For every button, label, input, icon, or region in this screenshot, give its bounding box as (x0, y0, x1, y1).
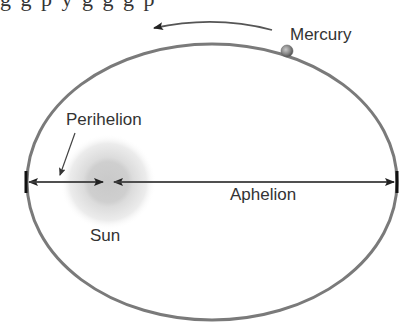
orbital-motion-arrow (154, 22, 272, 30)
perihelion-label: Perihelion (66, 110, 142, 129)
orbit-diagram: Mercury Perihelion Aphelion Sun (0, 0, 415, 331)
mercury-planet-icon (281, 45, 293, 57)
mercury-label: Mercury (290, 25, 352, 44)
sun-label: Sun (90, 226, 120, 245)
aphelion-label: Aphelion (230, 185, 296, 204)
